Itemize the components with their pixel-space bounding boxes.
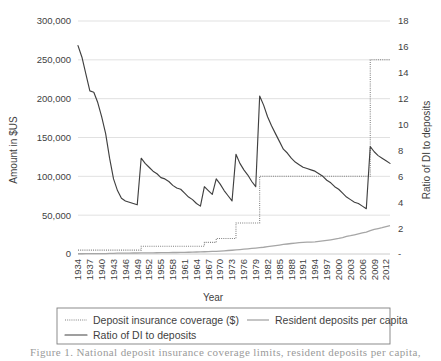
x-tick-label: 2009 <box>369 259 380 280</box>
x-tick-label: 2006 <box>357 259 368 280</box>
x-tick-label: 1958 <box>167 259 178 280</box>
legend-label: Ratio of DI to deposits <box>93 329 196 341</box>
y-tick-label: 150,000 <box>37 132 71 143</box>
x-tick-label: 1946 <box>120 259 131 280</box>
x-tick-label: 2003 <box>345 259 356 280</box>
y2-axis-title: Ratio of DI to deposits <box>421 101 432 199</box>
x-tick-label: 1934 <box>72 259 83 280</box>
y2-tick-label: 12 <box>398 93 409 104</box>
y-tick-label: 300,000 <box>37 15 71 26</box>
y2-tick-label: - <box>398 248 401 259</box>
y2-tick-label: 4 <box>398 197 403 208</box>
y2-tick-label: 16 <box>398 41 409 52</box>
x-tick-label: 2012 <box>380 259 391 280</box>
x-tick-label: 1943 <box>108 259 119 280</box>
x-tick-label: 1982 <box>262 259 273 280</box>
x-tick-label: 1973 <box>226 259 237 280</box>
y2-tick-label: 18 <box>398 15 409 26</box>
x-tick-label: 1991 <box>297 259 308 280</box>
y-axis-title: Amount in $US <box>8 116 19 184</box>
x-tick-label: 1979 <box>250 259 261 280</box>
y-tick-label: 200,000 <box>37 93 71 104</box>
x-tick-label: 1994 <box>309 259 320 280</box>
x-tick-label: 1955 <box>155 259 166 280</box>
y-tick-label: 0 <box>66 248 71 259</box>
x-axis-tick-labels: 1934193719401943194619491952195519581961… <box>72 259 391 280</box>
x-tick-label: 1952 <box>143 259 154 280</box>
x-tick-label: 1976 <box>238 259 249 280</box>
figure-container: 300,000250,000200,000150,000100,00050,00… <box>0 0 441 361</box>
y2-tick-label: 2 <box>398 223 403 234</box>
figure-caption-strip: Figure 1. National deposit insurance cov… <box>0 347 441 361</box>
x-tick-label: 1964 <box>191 259 202 280</box>
legend-label: Resident deposits per capita <box>275 314 408 326</box>
x-tick-label: 1970 <box>214 259 225 280</box>
x-tick-label: 1988 <box>286 259 297 280</box>
x-tick-label: 1961 <box>179 259 190 280</box>
y2-tick-label: 10 <box>398 119 409 130</box>
x-tick-label: 1940 <box>96 259 107 280</box>
x-tick-label: 1949 <box>132 259 143 280</box>
x-tick-label: 1967 <box>203 259 214 280</box>
x-axis-title: Year <box>203 292 224 303</box>
figure-caption: Figure 1. National deposit insurance cov… <box>30 347 421 358</box>
x-tick-label: 1937 <box>84 259 95 280</box>
y2-tick-label: 14 <box>398 67 409 78</box>
y2-tick-label: 8 <box>398 145 403 156</box>
y-tick-label: 50,000 <box>42 210 71 221</box>
chart-legend: Deposit insurance coverage ($)Resident d… <box>57 308 408 344</box>
y-tick-label: 100,000 <box>37 171 71 182</box>
y2-tick-label: 6 <box>398 171 403 182</box>
chart-canvas: 300,000250,000200,000150,000100,00050,00… <box>0 0 441 361</box>
x-tick-label: 1997 <box>321 259 332 280</box>
y-tick-label: 250,000 <box>37 54 71 65</box>
legend-label: Deposit insurance coverage ($) <box>93 314 239 326</box>
x-tick-label: 2000 <box>333 259 344 280</box>
x-tick-label: 1985 <box>274 259 285 280</box>
